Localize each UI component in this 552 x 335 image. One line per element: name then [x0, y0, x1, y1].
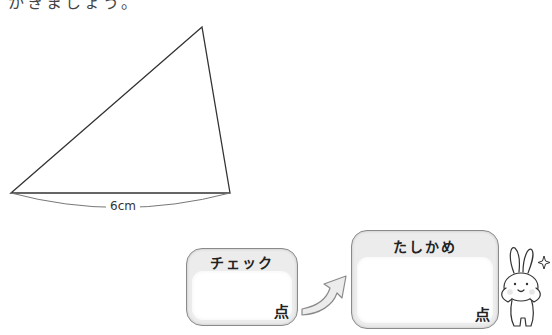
base-length-label: 6cm: [106, 199, 140, 213]
confirm-score-input-area[interactable]: [357, 257, 493, 323]
arrow-icon: [302, 276, 346, 315]
confirm-score-unit: 点: [475, 303, 490, 324]
confirm-score-title: たしかめ: [352, 236, 498, 256]
confirm-score-box: たしかめ 点: [351, 230, 499, 329]
check-score-unit: 点: [274, 300, 289, 321]
triangle-shape: [11, 27, 230, 193]
check-score-title: チェック: [187, 252, 297, 272]
rabbit-mascot-icon: [502, 248, 541, 326]
sparkle-icon: [538, 256, 550, 269]
check-score-box: チェック 点: [186, 248, 298, 326]
